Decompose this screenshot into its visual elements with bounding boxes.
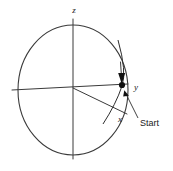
start-point-marker	[119, 82, 125, 88]
x-axis-label: x	[117, 114, 122, 124]
z-axis-label: z	[71, 5, 76, 15]
y-axis-line	[12, 84, 128, 90]
start-annotation-label: Start	[140, 118, 160, 128]
figure-canvas: z y x Start	[0, 0, 173, 171]
x-axis-line	[73, 88, 127, 114]
orbit-diagram-figure: z y x Start	[0, 0, 173, 171]
y-axis-label: y	[133, 82, 138, 92]
